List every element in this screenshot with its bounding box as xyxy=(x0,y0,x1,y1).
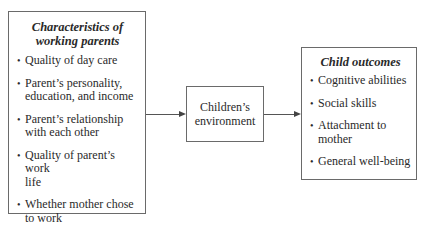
arrow-line-left-to-middle xyxy=(146,114,180,115)
title-line-2: working parents xyxy=(16,34,139,48)
list-item: •Cognitive abilities xyxy=(309,74,412,88)
label-line-1: Children’s xyxy=(195,100,256,114)
list-item: •Social skills xyxy=(309,97,412,111)
list-item: •Parent’s personality,education, and inc… xyxy=(16,77,139,104)
bullet-icon: • xyxy=(17,54,21,68)
item-text: Parent’s personality, xyxy=(25,77,139,91)
item-text: Parent’s relationship xyxy=(25,113,139,127)
item-text: Quality of day care xyxy=(25,54,139,68)
bullet-icon: • xyxy=(310,97,314,111)
arrow-head-icon xyxy=(294,111,301,117)
bullet-icon: • xyxy=(310,74,314,88)
bullet-icon: • xyxy=(17,198,21,212)
bullet-icon: • xyxy=(17,149,21,163)
label-line-2: environment xyxy=(195,114,256,128)
item-text: Cognitive abilities xyxy=(318,74,412,88)
item-text: to work xyxy=(25,212,139,226)
left-box-title: Characteristics of working parents xyxy=(16,20,139,48)
middle-box-label: Children’s environment xyxy=(195,100,256,128)
item-text: Attachment to xyxy=(318,119,412,133)
child-outcomes-list: •Cognitive abilities •Social skills •Att… xyxy=(309,74,412,169)
item-text: Social skills xyxy=(318,97,412,111)
item-text: with each other xyxy=(25,126,139,140)
bullet-icon: • xyxy=(310,119,314,133)
item-text: education, and income xyxy=(25,90,139,104)
item-text: Whether mother chose xyxy=(25,198,139,212)
item-text: Quality of parent’s work xyxy=(25,149,139,176)
child-outcomes-box: Child outcomes •Cognitive abilities •Soc… xyxy=(301,47,417,180)
bullet-icon: • xyxy=(17,77,21,91)
list-item: •General well-being xyxy=(309,155,412,169)
arrow-head-icon xyxy=(179,111,186,117)
list-item: •Quality of day care xyxy=(16,54,139,68)
working-parents-characteristics-list: •Quality of day care •Parent’s personali… xyxy=(16,54,139,225)
bullet-icon: • xyxy=(310,155,314,169)
bullet-icon: • xyxy=(17,113,21,127)
childrens-environment-box: Children’s environment xyxy=(186,86,264,142)
characteristics-of-working-parents-box: Characteristics of working parents •Qual… xyxy=(8,11,146,214)
list-item: •Quality of parent’s worklife xyxy=(16,149,139,190)
item-text: mother xyxy=(318,133,412,147)
item-text: life xyxy=(25,176,139,190)
item-text: General well-being xyxy=(318,155,412,169)
arrow-line-middle-to-right xyxy=(264,114,295,115)
title-line-1: Characteristics of xyxy=(16,20,139,34)
list-item: •Attachment tomother xyxy=(309,119,412,146)
list-item: •Parent’s relationshipwith each other xyxy=(16,113,139,140)
right-box-title: Child outcomes xyxy=(309,55,412,69)
list-item: •Whether mother choseto work xyxy=(16,198,139,225)
